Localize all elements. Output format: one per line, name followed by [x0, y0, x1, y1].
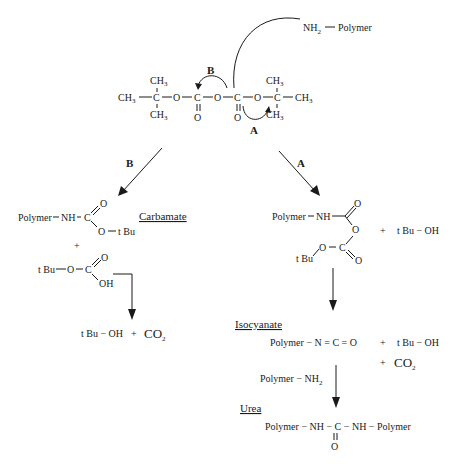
carbamate-header: Carbamate — [139, 210, 187, 222]
tbuoh-byproduct: t Bu − OH — [397, 225, 439, 236]
svg-text:O: O — [98, 226, 105, 237]
mixed-anhydride-intermediate: Polymer NH O O C O t Bu O — [272, 198, 362, 266]
amine-reagent: NH2 Polymer — [303, 22, 373, 36]
isocyanate-product: Polymer − N = C = O — [270, 337, 357, 348]
svg-text:C: C — [234, 92, 241, 103]
svg-text:t Bu: t Bu — [38, 264, 55, 275]
svg-text:A: A — [297, 157, 305, 169]
svg-text:O: O — [101, 252, 108, 263]
co2-byproduct: CO2 — [394, 355, 416, 372]
svg-text:Polymer: Polymer — [18, 212, 53, 223]
amine-reagent-2: Polymer − NH2 — [260, 373, 323, 387]
svg-text:O: O — [234, 112, 241, 123]
plus-sign: + — [380, 225, 386, 236]
tbu-carbonic-acid: t Bu O C O OH — [38, 252, 113, 289]
svg-text:Polymer: Polymer — [338, 22, 373, 33]
svg-text:A: A — [250, 124, 258, 136]
svg-text:C: C — [153, 92, 160, 103]
carbamate-product: Polymer NH C O O t Bu — [18, 198, 135, 237]
svg-text:+: + — [131, 328, 137, 339]
svg-text:C: C — [85, 264, 92, 275]
curved-arrow-a: A — [243, 106, 271, 136]
path-b-products: t Bu − OH + CO2 — [81, 326, 166, 343]
svg-text:O: O — [173, 92, 180, 103]
pathway-arrow-a: A — [279, 151, 320, 196]
svg-text:CH3: CH3 — [266, 75, 284, 88]
svg-text:CH3: CH3 — [150, 109, 168, 122]
urea-header: Urea — [240, 402, 261, 414]
urea-product: Polymer − NH − C − NH − Polymer — [265, 421, 412, 432]
svg-text:O: O — [214, 92, 221, 103]
pathway-arrow-b: B — [118, 148, 162, 196]
svg-text:O: O — [354, 198, 361, 209]
svg-text:NH2: NH2 — [303, 22, 321, 36]
decomposition-arrow — [113, 274, 136, 320]
svg-text:C: C — [274, 92, 281, 103]
boc-anhydride: CH3 CH3 C CH3 O C O O C O O CH3 C CH3 CH… — [118, 75, 313, 123]
svg-text:C: C — [339, 242, 346, 253]
svg-text:t Bu: t Bu — [296, 253, 313, 264]
tbuoh-byproduct: t Bu − OH — [397, 337, 439, 348]
svg-text:CH3: CH3 — [295, 92, 313, 105]
urea-carbonyl-o: O — [331, 441, 338, 452]
svg-text:O: O — [254, 92, 261, 103]
svg-text:Polymer: Polymer — [272, 211, 307, 222]
svg-text:O: O — [100, 198, 107, 209]
plus-sign: + — [380, 357, 386, 368]
plus-sign: + — [380, 337, 386, 348]
reaction-scheme: NH2 Polymer CH3 CH3 C CH3 O C O O C O O … — [0, 0, 459, 464]
svg-text:O: O — [319, 242, 326, 253]
svg-text:C: C — [84, 212, 91, 223]
svg-text:OH: OH — [99, 278, 113, 289]
svg-text:t Bu − OH: t Bu − OH — [81, 328, 123, 339]
isocyanate-header: Isocyanate — [235, 318, 282, 330]
svg-text:B: B — [207, 64, 215, 76]
curved-arrow-b: B — [195, 64, 227, 90]
svg-text:NH: NH — [316, 211, 330, 222]
svg-text:O: O — [67, 264, 74, 275]
svg-text:O: O — [194, 112, 201, 123]
svg-text:CH3: CH3 — [150, 75, 168, 88]
svg-text:B: B — [126, 157, 134, 169]
svg-text:O: O — [355, 255, 362, 266]
svg-text:t Bu: t Bu — [118, 226, 135, 237]
svg-text:CO2: CO2 — [144, 326, 166, 343]
urea-formation-arrow — [332, 365, 340, 408]
svg-text:C: C — [194, 92, 201, 103]
svg-text:NH: NH — [61, 212, 75, 223]
elimination-arrow — [329, 268, 337, 311]
plus-sign: + — [74, 240, 80, 251]
svg-text:O: O — [352, 224, 359, 235]
svg-text:CH3: CH3 — [118, 92, 136, 105]
